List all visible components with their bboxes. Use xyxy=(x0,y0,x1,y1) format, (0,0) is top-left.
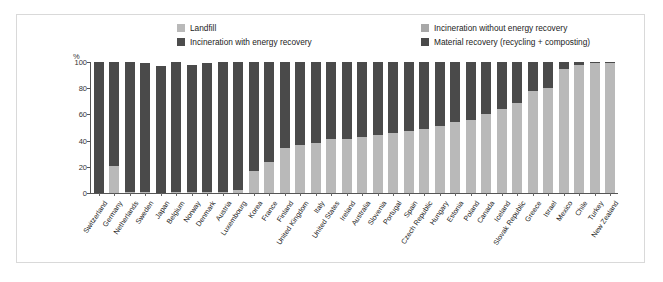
chart-figure: Landfill Incineration without energy rec… xyxy=(16,14,645,263)
x-axis-tick-mark xyxy=(99,193,100,196)
bar xyxy=(125,62,135,193)
bar-segment-recovery xyxy=(249,62,259,171)
bar-segment-recovery xyxy=(481,62,491,114)
x-axis-tick-mark xyxy=(533,193,534,196)
bar-segment-recovery xyxy=(373,62,383,135)
bar xyxy=(295,62,305,193)
bar-segment-recovery xyxy=(497,62,507,109)
x-axis-tick-mark xyxy=(409,193,410,196)
bar xyxy=(590,62,600,193)
x-axis-tick-mark xyxy=(254,193,255,196)
bar xyxy=(404,62,414,193)
x-axis-tick-mark xyxy=(502,193,503,196)
y-axis-tick-mark xyxy=(87,88,91,89)
bar xyxy=(264,62,274,193)
x-axis-tick-mark xyxy=(347,193,348,196)
x-axis-tick-mark xyxy=(378,193,379,196)
x-axis-tick-mark xyxy=(130,193,131,196)
bar xyxy=(109,62,119,193)
bar-segment-recovery xyxy=(450,62,460,122)
legend-item-landfill: Landfill xyxy=(177,24,216,32)
bar-segment-recovery xyxy=(326,62,336,139)
bar-segment-landfill xyxy=(342,139,352,193)
bar-segment-recovery xyxy=(404,62,414,131)
x-axis-tick-mark xyxy=(316,193,317,196)
bar-segment-landfill xyxy=(435,126,445,193)
bar xyxy=(497,62,507,193)
bar-segment-landfill xyxy=(109,166,119,194)
x-axis-tick-mark xyxy=(595,193,596,196)
x-axis-tick-mark xyxy=(114,193,115,196)
x-axis-tick-mark xyxy=(424,193,425,196)
bar-segment-landfill xyxy=(295,145,305,193)
plot-area: 020406080100 SwitzerlandGermanyNetherlan… xyxy=(91,62,618,193)
x-axis-tick-mark xyxy=(161,193,162,196)
bar-segment-recovery xyxy=(419,62,429,129)
bar-segment-recovery xyxy=(233,62,243,190)
y-axis-tick-label: 100 xyxy=(74,58,87,67)
bar-segment-recovery xyxy=(466,62,476,120)
bar-segment-recovery xyxy=(295,62,305,145)
bar xyxy=(326,62,336,193)
x-axis-tick-mark xyxy=(331,193,332,196)
y-axis-tick-mark xyxy=(87,167,91,168)
y-axis-tick-mark xyxy=(87,62,91,63)
x-axis-tick-mark xyxy=(393,193,394,196)
bar xyxy=(249,62,259,193)
bar xyxy=(140,63,150,193)
bar xyxy=(187,65,197,193)
bar-segment-recovery xyxy=(171,62,181,192)
bar-segment-landfill xyxy=(559,69,569,193)
bar xyxy=(94,62,104,193)
bar xyxy=(512,62,522,193)
bar-segment-recovery xyxy=(311,62,321,143)
legend-swatch-incineration-without xyxy=(421,24,429,32)
legend-swatch-landfill xyxy=(177,24,185,32)
bar xyxy=(435,62,445,193)
x-axis-tick-mark xyxy=(238,193,239,196)
bar-segment-landfill xyxy=(326,139,336,193)
bar-segment-landfill xyxy=(605,63,615,193)
legend-swatch-material-recovery xyxy=(421,38,429,46)
x-axis-tick-mark xyxy=(145,193,146,196)
y-axis-line xyxy=(90,62,91,193)
x-axis-tick-mark xyxy=(471,193,472,196)
bar xyxy=(342,62,352,193)
bar-segment-recovery xyxy=(156,66,166,193)
bar xyxy=(605,62,615,193)
bar xyxy=(357,62,367,193)
x-axis-tick-mark xyxy=(223,193,224,196)
legend-label-incineration-with: Incineration with energy recovery xyxy=(190,38,312,46)
x-axis-tick-mark xyxy=(486,193,487,196)
y-axis-tick-mark xyxy=(87,141,91,142)
y-axis-tick-label: 20 xyxy=(79,162,87,171)
bar xyxy=(528,62,538,193)
x-axis-tick-mark xyxy=(610,193,611,196)
bar-segment-landfill xyxy=(264,162,274,193)
legend-item-material-recovery: Material recovery (recycling + compostin… xyxy=(421,38,590,46)
bar-segment-recovery xyxy=(218,62,228,192)
legend-label-material-recovery: Material recovery (recycling + compostin… xyxy=(434,38,590,46)
bar xyxy=(233,62,243,193)
y-axis-tick-label: 40 xyxy=(79,136,87,145)
bar-segment-recovery xyxy=(94,62,104,193)
x-axis-tick-mark xyxy=(455,193,456,196)
legend-item-incineration-without-energy-recovery: Incineration without energy recovery xyxy=(421,24,567,32)
bar xyxy=(218,62,228,193)
x-axis-tick-mark xyxy=(362,193,363,196)
x-axis-tick-mark xyxy=(285,193,286,196)
x-axis-tick-mark xyxy=(269,193,270,196)
x-axis-line xyxy=(90,193,618,194)
bar-segment-recovery xyxy=(357,62,367,137)
bar-segment-landfill xyxy=(357,137,367,193)
x-axis-tick-mark xyxy=(440,193,441,196)
y-axis-tick-mark xyxy=(87,114,91,115)
bar xyxy=(280,62,290,193)
bar-segment-landfill xyxy=(404,131,414,193)
x-axis-tick-mark xyxy=(579,193,580,196)
bar-segment-landfill xyxy=(280,148,290,193)
x-axis-tick-mark xyxy=(517,193,518,196)
y-axis-tick-label: 80 xyxy=(79,84,87,93)
bar-segment-landfill xyxy=(543,88,553,193)
legend-label-landfill: Landfill xyxy=(190,24,216,32)
